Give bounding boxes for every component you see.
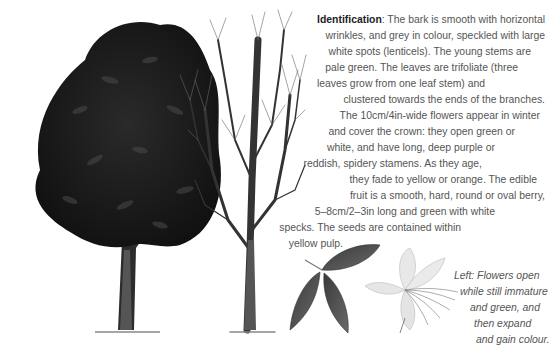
tree-in-leaf-illustration — [35, 22, 221, 332]
paragraph-line: clustered towards the ends of the branch… — [343, 92, 545, 108]
paragraph-line: wrinkles, and grey in colour, speckled w… — [326, 28, 545, 44]
paragraph-line: reddish, spidery stamens. As they age, — [304, 156, 482, 172]
paragraph-line: specks. The seeds are contained within — [279, 220, 461, 236]
paragraph-line: they fade to yellow or orange. The edibl… — [349, 172, 537, 188]
caption-line: Left: Flowers open — [454, 268, 539, 284]
leaf-illustration — [290, 245, 380, 333]
paragraph-line: fruit is a smooth, hard, round or oval b… — [350, 188, 545, 204]
flower-caption: Left: Flowers open while still immature … — [450, 268, 555, 350]
paragraph-line: Identification: The bark is smooth with … — [317, 12, 545, 28]
flower-illustration — [365, 248, 458, 333]
paragraph-line: yellow pulp. — [289, 236, 343, 252]
caption-line: while still immature — [460, 284, 548, 300]
caption-line: and gain colour. — [476, 332, 550, 348]
identification-paragraph: Identification: The bark is smooth with … — [280, 12, 545, 252]
identification-heading: Identification — [317, 14, 382, 25]
caption-line: then expand — [474, 316, 531, 332]
caption-line: and green, and — [470, 300, 540, 316]
paragraph-line: pale green. The leaves are trifoliate (t… — [325, 60, 518, 76]
paragraph-line: white, and have long, deep purple or — [327, 140, 495, 156]
paragraph-line: 5–8cm/2–3in long and green with white — [315, 204, 495, 220]
paragraph-line: leaves grow from one leaf stem) and — [317, 76, 485, 92]
page: Identification: The bark is smooth with … — [0, 0, 555, 351]
paragraph-line: The 10cm/4in-wide flowers appear in wint… — [340, 108, 540, 124]
paragraph-line: and cover the crown: they open green or — [328, 124, 515, 140]
paragraph-line: white spots (lenticels). The young stems… — [328, 44, 531, 60]
